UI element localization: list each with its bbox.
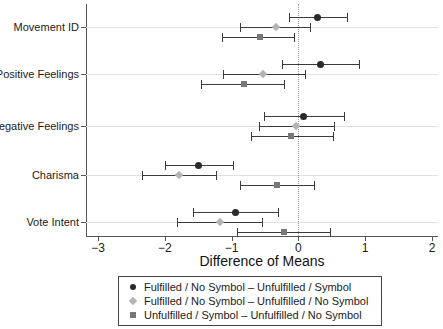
data-point-marker-diamond bbox=[175, 171, 183, 179]
data-point-marker-square bbox=[281, 229, 287, 235]
legend: Fulfilled / No Symbol – Unfulfilled / Sy… bbox=[118, 276, 382, 326]
category-gridline bbox=[86, 175, 438, 176]
data-point-marker-square bbox=[288, 133, 294, 139]
data-point-marker-circle bbox=[232, 209, 239, 216]
legend-marker-circle-icon bbox=[128, 281, 138, 293]
ci-cap-lower bbox=[142, 171, 143, 180]
y-axis-tick-label-charisma: Charisma bbox=[32, 169, 79, 181]
zero-reference-line bbox=[298, 4, 299, 238]
x-axis-line bbox=[86, 236, 438, 237]
legend-item-label: Unfulfilled / Symbol – Unfulfilled / No … bbox=[144, 309, 362, 321]
ci-cap-upper bbox=[359, 60, 360, 69]
y-axis-tick bbox=[81, 126, 86, 127]
ci-cap-lower bbox=[223, 70, 224, 79]
ci-cap-lower bbox=[240, 181, 241, 190]
ci-cap-lower bbox=[251, 132, 252, 141]
data-point-marker-square bbox=[241, 81, 247, 87]
legend-marker-square-icon bbox=[128, 309, 138, 321]
ci-cap-lower bbox=[289, 13, 290, 22]
ci-cap-upper bbox=[344, 112, 345, 121]
ci-cap-lower bbox=[282, 60, 283, 69]
legend-item: Unfulfilled / Symbol – Unfulfilled / No … bbox=[119, 308, 381, 322]
data-point-marker-square bbox=[257, 34, 263, 40]
y-axis-tick-label-vote-intent: Vote Intent bbox=[26, 216, 79, 228]
ci-cap-upper bbox=[278, 208, 279, 217]
data-point-marker-diamond bbox=[271, 23, 279, 31]
data-point-marker-square bbox=[274, 182, 280, 188]
ci-cap-lower bbox=[240, 23, 241, 32]
data-point-marker-circle bbox=[317, 61, 324, 68]
ci-cap-upper bbox=[334, 122, 335, 131]
y-axis-tick-label-movement-id: Movement ID bbox=[14, 21, 79, 33]
y-axis-tick bbox=[81, 74, 86, 75]
y-axis-tick bbox=[81, 222, 86, 223]
legend-item: Fulfilled / No Symbol – Unfulfilled / No… bbox=[119, 294, 381, 308]
ci-cap-lower bbox=[177, 218, 178, 227]
legend-marker-diamond-icon bbox=[128, 295, 138, 307]
ci-cap-upper bbox=[284, 80, 285, 89]
data-point-marker-diamond bbox=[215, 218, 223, 226]
data-point-marker-circle bbox=[300, 113, 307, 120]
x-axis-title: Difference of Means bbox=[86, 253, 438, 269]
legend-item-label: Fulfilled / No Symbol – Unfulfilled / No… bbox=[144, 295, 368, 307]
ci-cap-lower bbox=[259, 122, 260, 131]
ci-cap-upper bbox=[330, 228, 331, 237]
coefficient-plot-figure: Movement IDPositive FeelingsNegative Fee… bbox=[0, 0, 443, 329]
y-axis-tick-label-negative-feelings: Negative Feelings bbox=[0, 120, 79, 132]
ci-cap-upper bbox=[262, 218, 263, 227]
y-axis-tick bbox=[81, 175, 86, 176]
ci-cap-lower bbox=[201, 80, 202, 89]
data-point-marker-circle bbox=[314, 14, 321, 21]
y-axis-tick-label-positive-feelings: Positive Feelings bbox=[0, 68, 79, 80]
ci-cap-lower bbox=[165, 161, 166, 170]
legend-item: Fulfilled / No Symbol – Unfulfilled / Sy… bbox=[119, 280, 381, 294]
ci-cap-upper bbox=[314, 181, 315, 190]
ci-cap-upper bbox=[233, 161, 234, 170]
ci-cap-upper bbox=[305, 70, 306, 79]
data-point-marker-diamond bbox=[259, 70, 267, 78]
ci-cap-lower bbox=[222, 33, 223, 42]
plot-area: Movement IDPositive FeelingsNegative Fee… bbox=[86, 4, 438, 236]
data-point-marker-circle bbox=[195, 162, 202, 169]
ci-cap-upper bbox=[310, 23, 311, 32]
ci-cap-lower bbox=[193, 208, 194, 217]
y-axis-line bbox=[86, 4, 87, 236]
ci-cap-upper bbox=[216, 171, 217, 180]
legend-item-label: Fulfilled / No Symbol – Unfulfilled / Sy… bbox=[144, 281, 351, 293]
ci-cap-lower bbox=[237, 228, 238, 237]
ci-cap-upper bbox=[294, 33, 295, 42]
ci-cap-upper bbox=[347, 13, 348, 22]
y-axis-tick bbox=[81, 27, 86, 28]
ci-cap-upper bbox=[333, 132, 334, 141]
ci-cap-lower bbox=[264, 112, 265, 121]
